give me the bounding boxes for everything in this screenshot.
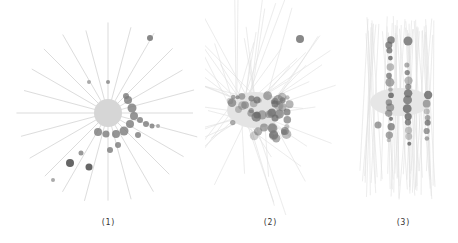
panel-3-column-graph: (3) [345,0,458,215]
hub-node [94,99,122,127]
panel-1-radial-graph: (1) [10,0,210,215]
radial-graph-svg [10,0,210,215]
panel-2-cluster-graph: (2) [205,0,340,215]
caption-2: (2) [250,218,290,227]
cluster-graph-svg [205,0,340,215]
column-graph-svg [345,0,458,215]
caption-3: (3) [383,218,423,227]
caption-1: (1) [88,218,128,227]
